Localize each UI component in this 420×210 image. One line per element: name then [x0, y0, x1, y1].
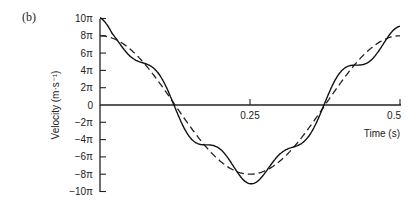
svg-text:2π: 2π: [81, 82, 94, 93]
svg-text:0.5: 0.5: [387, 110, 401, 121]
velocity-chart: (b) 10π8π6π4π2π0−2π−4π−6π−8π−10π 0.250.5…: [0, 0, 420, 210]
svg-text:6π: 6π: [81, 48, 94, 59]
svg-text:0.25: 0.25: [240, 110, 260, 121]
x-axis-label: Time (s): [364, 128, 400, 139]
svg-text:−4π: −4π: [75, 134, 93, 145]
svg-text:10π: 10π: [75, 13, 93, 24]
svg-text:−2π: −2π: [75, 117, 93, 128]
svg-text:−8π: −8π: [75, 169, 93, 180]
y-axis-label: Velocity (m·s⁻¹): [50, 71, 61, 140]
panel-label: (b): [22, 10, 36, 24]
svg-text:0: 0: [87, 100, 93, 111]
svg-text:−6π: −6π: [75, 151, 93, 162]
svg-text:4π: 4π: [81, 65, 94, 76]
svg-text:−10π: −10π: [69, 186, 93, 197]
svg-text:8π: 8π: [81, 30, 94, 41]
